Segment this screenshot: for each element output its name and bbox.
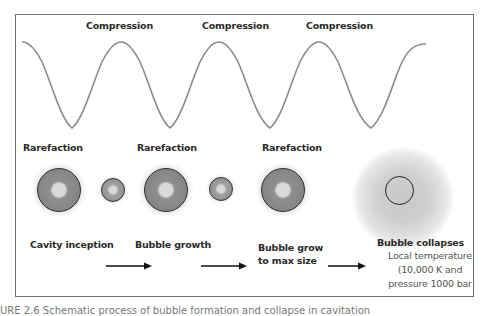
- arrow-right-icon-3: [328, 262, 368, 270]
- large-bubble-1: [37, 168, 81, 212]
- stage-label-cavity-inception: Cavity inception: [30, 239, 114, 250]
- small-bubble-1: [101, 178, 125, 202]
- small-bubble-2: [209, 177, 233, 201]
- collapsing-bubble: [385, 176, 414, 205]
- figure-caption: URE 2.6 Schematic process of bubble form…: [0, 305, 370, 316]
- rarefaction-label-1: Rarefaction: [23, 142, 83, 153]
- large-bubble-3: [261, 168, 305, 212]
- arrow-right-icon-1: [106, 262, 154, 270]
- rarefaction-label-3: Rarefaction: [262, 142, 322, 153]
- collapse-note-line2: (10,000 K and: [380, 263, 480, 277]
- stage-label-bubble-growth: Bubble growth: [135, 239, 211, 250]
- rarefaction-label-2: Rarefaction: [137, 142, 197, 153]
- compression-label-3: Compression: [306, 20, 373, 31]
- collapse-note-line1: Local temperature: [380, 249, 480, 263]
- compression-label-1: Compression: [86, 20, 153, 31]
- stage-label-bubble-collapses: Bubble collapses: [377, 237, 464, 248]
- large-bubble-2: [144, 168, 188, 212]
- stage-label-max-size-line2: to max size: [258, 255, 317, 266]
- collapse-note-line3: pressure 1000 bar: [380, 277, 480, 291]
- stage-label-max-size-line1: Bubble grow: [258, 242, 323, 253]
- arrow-right-icon-2: [201, 262, 249, 270]
- compression-label-2: Compression: [202, 20, 269, 31]
